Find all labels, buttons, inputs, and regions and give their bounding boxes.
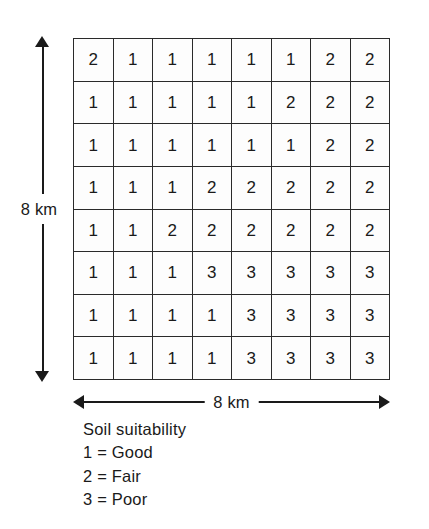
grid-cell: 1	[153, 252, 193, 295]
vertical-line-upper	[42, 44, 44, 194]
grid-cell: 1	[114, 82, 154, 125]
grid-cell: 1	[232, 82, 272, 125]
grid-cell: 1	[193, 124, 233, 167]
grid-cell: 2	[193, 210, 233, 253]
legend-entry-fair: 2 = Fair	[83, 465, 186, 488]
grid-cell: 1	[232, 124, 272, 167]
grid-cell: 1	[74, 82, 114, 125]
grid-cell: 2	[311, 82, 351, 125]
grid-cell: 3	[232, 295, 272, 338]
horizontal-scale-label: 8 km	[204, 394, 259, 411]
grid-cell: 1	[232, 39, 272, 82]
grid-cell: 2	[232, 167, 272, 210]
grid-cell: 1	[272, 124, 312, 167]
grid-cell: 3	[311, 337, 351, 380]
grid-cell: 3	[351, 295, 391, 338]
grid-cell: 1	[153, 124, 193, 167]
grid-cell: 1	[74, 167, 114, 210]
grid-cell: 1	[153, 82, 193, 125]
grid-cell: 1	[153, 167, 193, 210]
horizontal-line-left	[81, 401, 211, 403]
grid-cell: 3	[311, 252, 351, 295]
grid-cell: 2	[351, 124, 391, 167]
grid-cell: 1	[74, 210, 114, 253]
grid-cell: 1	[114, 295, 154, 338]
grid-cell: 1	[114, 252, 154, 295]
grid-cell: 2	[272, 210, 312, 253]
grid-cell: 3	[232, 252, 272, 295]
grid-cell: 1	[153, 337, 193, 380]
grid-cell: 1	[272, 39, 312, 82]
grid-cell: 2	[351, 82, 391, 125]
grid-cell: 1	[74, 295, 114, 338]
legend: Soil suitability 1 = Good 2 = Fair 3 = P…	[83, 418, 186, 512]
legend-entry-good: 1 = Good	[83, 441, 186, 464]
grid-cell: 2	[311, 167, 351, 210]
horizontal-scale-arrow: 8 km	[73, 391, 390, 413]
grid-cell: 2	[232, 210, 272, 253]
grid-cell: 2	[311, 39, 351, 82]
grid-cell: 3	[351, 337, 391, 380]
grid-cell: 1	[193, 295, 233, 338]
grid-cell: 1	[74, 252, 114, 295]
grid-cell: 3	[272, 295, 312, 338]
grid-cell: 3	[232, 337, 272, 380]
grid-cell: 1	[114, 210, 154, 253]
horizontal-line-right	[252, 401, 382, 403]
grid-cell: 1	[114, 337, 154, 380]
legend-entry-poor: 3 = Poor	[83, 488, 186, 511]
grid-cell: 3	[272, 252, 312, 295]
grid-cell: 2	[351, 39, 391, 82]
grid-cell: 3	[272, 337, 312, 380]
grid-cell: 1	[193, 337, 233, 380]
grid-cell: 2	[74, 39, 114, 82]
grid-cell: 1	[114, 39, 154, 82]
grid-cell: 2	[272, 167, 312, 210]
grid-cell: 2	[272, 82, 312, 125]
vertical-scale-label: 8 km	[10, 198, 68, 221]
legend-title: Soil suitability	[83, 418, 186, 441]
grid-cell: 2	[351, 167, 391, 210]
grid-cell: 2	[351, 210, 391, 253]
grid-cell: 2	[153, 210, 193, 253]
grid-cell: 1	[193, 82, 233, 125]
grid-cell: 3	[311, 295, 351, 338]
grid-cell: 1	[114, 124, 154, 167]
grid-cell: 2	[311, 210, 351, 253]
grid-cell: 1	[74, 337, 114, 380]
grid-cell: 1	[193, 39, 233, 82]
grid-cell: 3	[193, 252, 233, 295]
vertical-line-lower	[42, 224, 44, 374]
grid-cell: 1	[114, 167, 154, 210]
grid-cell: 2	[193, 167, 233, 210]
arrow-down-icon	[35, 371, 49, 382]
soil-suitability-grid: 2111112211111222111111221112222211222222…	[73, 38, 390, 380]
grid-cell: 3	[351, 252, 391, 295]
arrow-right-icon	[379, 395, 390, 409]
grid-cell: 1	[153, 295, 193, 338]
grid-cell: 1	[153, 39, 193, 82]
vertical-scale-arrow: 8 km	[10, 36, 68, 382]
grid-cell: 1	[74, 124, 114, 167]
grid-cell: 2	[311, 124, 351, 167]
